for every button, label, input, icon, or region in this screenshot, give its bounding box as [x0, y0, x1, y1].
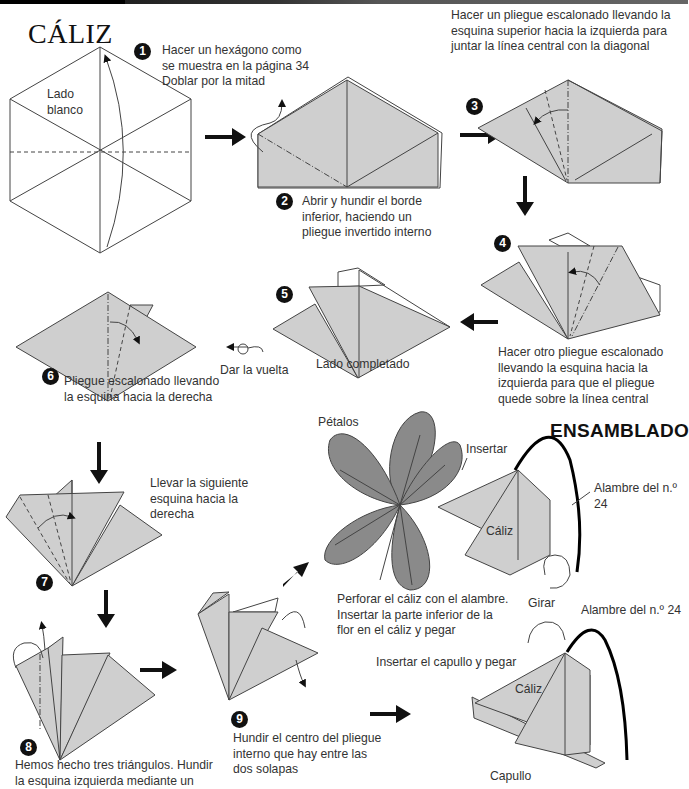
step4-line: quede sobre la línea central: [498, 392, 663, 408]
assembly-line: Perforar el cáliz con el alambre.: [337, 592, 508, 608]
petals-label: Pétalos: [318, 415, 359, 431]
arrow-left-1: [460, 313, 498, 331]
step9-text: Hundir el centro del pliegue interno que…: [233, 731, 381, 778]
white-side-line: Lado: [47, 87, 83, 103]
step7-line: Llevar la siguiente: [150, 476, 248, 492]
arrow-right-3: [140, 661, 177, 679]
step4-line: izquierda para que el pliegue: [498, 376, 663, 392]
calyx-label-bottom: Cáliz: [515, 682, 542, 698]
assembly-instructions: Perforar el cáliz con el alambre. Insert…: [337, 592, 508, 639]
step6-line: Pliegue escalonado llevando: [64, 374, 219, 390]
step7-line: esquina hacia la: [150, 492, 248, 508]
step9-line: Hundir el centro del pliegue: [233, 731, 381, 747]
step-badge-6: 6: [42, 368, 59, 385]
step1-text: Hacer un hexágono como se muestra en la …: [162, 43, 309, 90]
bud-label: Capullo: [490, 769, 531, 785]
step-badge-2: 2: [276, 193, 293, 210]
insert-bud-label: Insertar el capullo y pegar: [376, 655, 516, 671]
assembly-heading: ENSAMBLADO: [550, 420, 689, 442]
step9-line: dos solapas: [233, 762, 381, 778]
step2-diagram: [251, 77, 442, 188]
step3-line: Hacer un pliegue escalonado llevando la: [451, 8, 671, 24]
step-badge-5: 5: [276, 286, 293, 303]
wire-label-top: Alambre del n.º 24: [594, 481, 688, 512]
step3-line: juntar la línea central con la diagonal: [451, 39, 671, 55]
step-badge-7: 7: [36, 574, 53, 591]
step4-line: llevando la esquina hacia la: [498, 361, 663, 377]
white-side-label: Lado blanco: [47, 87, 83, 118]
step1-line: Doblar por la mitad: [162, 74, 309, 90]
step-badge-8: 8: [20, 739, 37, 756]
step8-line: la esquina izquierda mediante un: [15, 774, 213, 789]
step8-text: Hemos hecho tres triángulos. Hundir la e…: [15, 758, 213, 789]
turn-over-icon: [230, 344, 263, 354]
step1-line: Hacer un hexágono como: [162, 43, 309, 59]
assembly-line: flor en el cáliz y pegar: [337, 623, 508, 639]
step9-line: interno que hay entre las: [233, 747, 381, 763]
turn-over-label: Dar la vuelta: [220, 363, 288, 379]
step7-diagram: [6, 480, 162, 586]
step5-text: Lado completado: [316, 357, 410, 373]
insert-label: Insertar: [466, 442, 507, 458]
step4-line: Hacer otro pliegue escalonado: [498, 345, 663, 361]
step6-text: Pliegue escalonado llevando la esquina h…: [64, 374, 219, 405]
step4-text: Hacer otro pliegue escalonado llevando l…: [498, 345, 663, 407]
arrow-down-1: [516, 176, 534, 216]
step-badge-4: 4: [494, 235, 511, 252]
arrow-diagonal-up: [283, 562, 309, 587]
step6-line: la esquina hacia la derecha: [64, 390, 219, 406]
step2-text: Abrir y hundir el borde inferior, hacien…: [302, 194, 431, 241]
rotate-label: Girar: [528, 596, 555, 612]
calyx-label-top: Cáliz: [486, 524, 513, 540]
step-badge-1: 1: [134, 43, 151, 60]
step8-line: Hemos hecho tres triángulos. Hundir: [15, 758, 213, 774]
step2-line: inferior, haciendo un: [302, 210, 431, 226]
wire-label-bottom: Alambre del n.º 24: [581, 603, 681, 619]
step3-diagram: [478, 80, 662, 183]
step3-line: esquina superior hacia la izquierda para: [451, 24, 671, 40]
step-badge-3: 3: [466, 98, 483, 115]
arrow-down-2: [90, 442, 108, 484]
step9-diagram: [198, 592, 318, 700]
arrow-down-3: [97, 590, 115, 628]
step-badge-9: 9: [231, 711, 248, 728]
step2-line: pliegue invertido interno: [302, 225, 431, 241]
flower-petals: [325, 412, 463, 590]
white-side-line: blanco: [47, 103, 83, 119]
assembly-line: Insertar la parte inferior de la: [337, 608, 508, 624]
step2-line: Abrir y hundir el borde: [302, 194, 431, 210]
step7-line: derecha: [150, 507, 248, 523]
arrow-right-4: [370, 705, 411, 723]
step3-text: Hacer un pliegue escalonado llevando la …: [451, 8, 671, 55]
arrow-right-1: [205, 128, 246, 146]
step1-line: se muestra en la página 34: [162, 59, 309, 75]
step7-text: Llevar la siguiente esquina hacia la der…: [150, 476, 248, 523]
step8-diagram: [13, 625, 155, 760]
calyx-bottom-diagram: [472, 622, 627, 768]
